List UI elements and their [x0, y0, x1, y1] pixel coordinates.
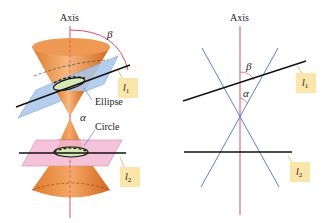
left-panel: l1 Ellipse α Circle l2 Axis — [16, 12, 140, 218]
right-l2-tag: l2 — [288, 156, 310, 182]
circle-label: Circle — [95, 121, 120, 132]
alpha-label: α — [80, 111, 86, 123]
right-panel: l1 l2 Axis β α — [183, 12, 316, 215]
right-l1-tag: l1 — [296, 66, 316, 93]
left-beta-label: β — [106, 28, 113, 40]
right-beta-label: β — [245, 60, 252, 72]
right-alpha-label: α — [243, 87, 249, 99]
l1-tag: l1 — [118, 70, 138, 98]
upper-cone-top — [32, 38, 110, 56]
ellipse-label: Ellipse — [95, 96, 123, 107]
lower-cone — [32, 166, 110, 198]
left-axis-label: Axis — [60, 12, 79, 23]
conic-sections-diagram: l1 Ellipse α Circle l2 Axis — [0, 0, 329, 223]
right-axis-label: Axis — [230, 12, 249, 23]
l2-tag: l2 — [120, 157, 140, 187]
